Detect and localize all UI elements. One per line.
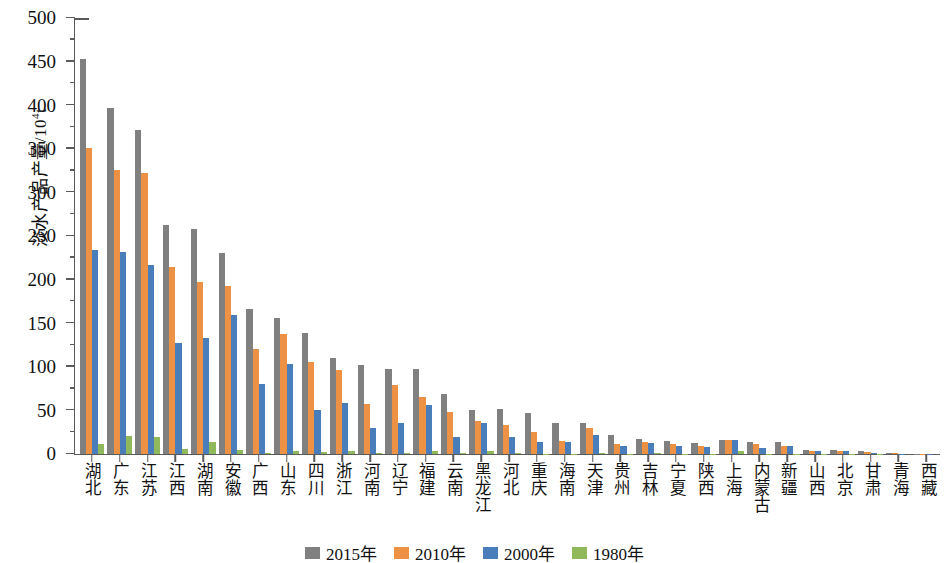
bar-group: [189, 18, 217, 454]
x-axis-tick-label: 福建: [417, 462, 434, 496]
bar-group: [857, 18, 885, 454]
bar-group: [551, 18, 579, 454]
y-axis-tick-label: 150: [28, 313, 57, 332]
y-axis-tick-label: 400: [28, 95, 57, 114]
x-axis-tick: [508, 454, 510, 462]
y-axis-tick: 350: [66, 147, 75, 148]
x-axis-tick: [536, 454, 538, 462]
x-axis-tick-label: 山西: [806, 462, 823, 496]
x-label-cell: 陕西: [690, 462, 718, 540]
legend-item[interactable]: 2010年: [394, 540, 466, 563]
bar-group: [606, 18, 634, 454]
x-axis-tick: [842, 454, 844, 462]
x-axis-tick: [453, 454, 455, 462]
x-axis-tick-label: 辽宁: [389, 462, 406, 496]
x-label-cell: 山东: [272, 462, 300, 540]
bars-layer: [75, 18, 940, 454]
x-axis-tick: [675, 454, 677, 462]
y-axis-tick-label: 0: [47, 444, 57, 463]
x-label-cell: 广西: [244, 462, 272, 540]
legend-item[interactable]: 1980年: [572, 540, 644, 563]
x-axis-tick-label: 四川: [305, 462, 322, 496]
bar-s1980: [126, 436, 132, 454]
y-axis-tick: 100: [66, 365, 75, 366]
x-label-cell: 天津: [578, 462, 606, 540]
bar-s2000: [537, 442, 543, 454]
x-axis-tick-label: 广西: [250, 462, 267, 496]
bar-s1980: [182, 449, 188, 454]
x-axis-tick-label: 甘肃: [862, 462, 879, 496]
bar-s2000: [370, 428, 376, 454]
y-axis-tick-label: 500: [28, 8, 57, 27]
x-axis-tick-label: 江苏: [138, 462, 155, 496]
bar-s2000: [593, 435, 599, 454]
x-axis-tick-label: 安徽: [222, 462, 239, 496]
bar-group: [579, 18, 607, 454]
x-axis-tick-label: 湖南: [194, 462, 211, 496]
bar-s1980: [432, 451, 438, 454]
bar-s2000: [509, 437, 515, 454]
x-axis-tick-label: 河南: [361, 462, 378, 496]
x-label-cell: 云南: [439, 462, 467, 540]
y-axis-tick: 250: [66, 235, 75, 236]
x-axis-tick: [286, 454, 288, 462]
bar-group: [662, 18, 690, 454]
x-axis-tick-label: 陕西: [695, 462, 712, 496]
x-label-cell: 内蒙古: [745, 462, 773, 540]
bar-s1980: [487, 451, 493, 454]
bar-group: [885, 18, 913, 454]
bar-s1980: [209, 442, 215, 454]
bar-s2000: [231, 315, 237, 454]
x-axis-tick-label: 重庆: [528, 462, 545, 496]
x-axis-tick-label: 天津: [584, 462, 601, 496]
bar-group: [467, 18, 495, 454]
x-axis-tick-label: 西藏: [918, 462, 935, 496]
x-axis-tick: [647, 454, 649, 462]
bar-s1980: [738, 451, 744, 454]
x-axis-tick: [119, 454, 121, 462]
legend-swatch-icon: [305, 547, 320, 559]
bar-s1980: [515, 453, 521, 454]
y-axis-tick: 150: [66, 322, 75, 323]
bar-s1980: [404, 453, 410, 454]
x-axis-tick-label: 吉林: [639, 462, 656, 496]
x-label-cell: 西藏: [912, 462, 940, 540]
bar-s2000: [314, 410, 320, 454]
bar-group: [106, 18, 134, 454]
bar-s1980: [237, 450, 243, 454]
bar-s2000: [565, 442, 571, 454]
x-label-cell: 河南: [355, 462, 383, 540]
x-axis-tick-label: 新疆: [779, 462, 796, 496]
y-axis-tick: 0: [66, 453, 75, 454]
legend-label: 2015年: [326, 540, 377, 563]
legend-item[interactable]: 2015年: [305, 540, 377, 563]
bar-group: [718, 18, 746, 454]
bar-s2000: [259, 384, 265, 454]
legend-swatch-icon: [394, 547, 409, 559]
x-axis-tick: [814, 454, 816, 462]
x-axis-tick-label: 上海: [723, 462, 740, 496]
bar-s1980: [348, 451, 354, 454]
x-label-cell: 甘肃: [857, 462, 885, 540]
bar-s1980: [154, 437, 160, 454]
x-label-cell: 广东: [105, 462, 133, 540]
bar-s2000: [92, 250, 98, 454]
x-label-cell: 重庆: [523, 462, 551, 540]
bar-group: [801, 18, 829, 454]
bar-s2000: [203, 338, 209, 454]
bar-group: [356, 18, 384, 454]
x-label-cell: 黑龙江: [467, 462, 495, 540]
legend-item[interactable]: 2000年: [483, 540, 555, 563]
bar-group: [161, 18, 189, 454]
x-axis-tick: [870, 454, 872, 462]
x-axis-tick-label: 云南: [444, 462, 461, 496]
x-axis-tick: [425, 454, 427, 462]
x-axis-tick-label: 宁夏: [667, 462, 684, 496]
bar-group: [273, 18, 301, 454]
bar-s2000: [287, 364, 293, 454]
bar-group: [495, 18, 523, 454]
bar-group: [523, 18, 551, 454]
x-axis-tick: [314, 454, 316, 462]
x-label-cell: 江苏: [133, 462, 161, 540]
legend-swatch-icon: [483, 547, 498, 559]
